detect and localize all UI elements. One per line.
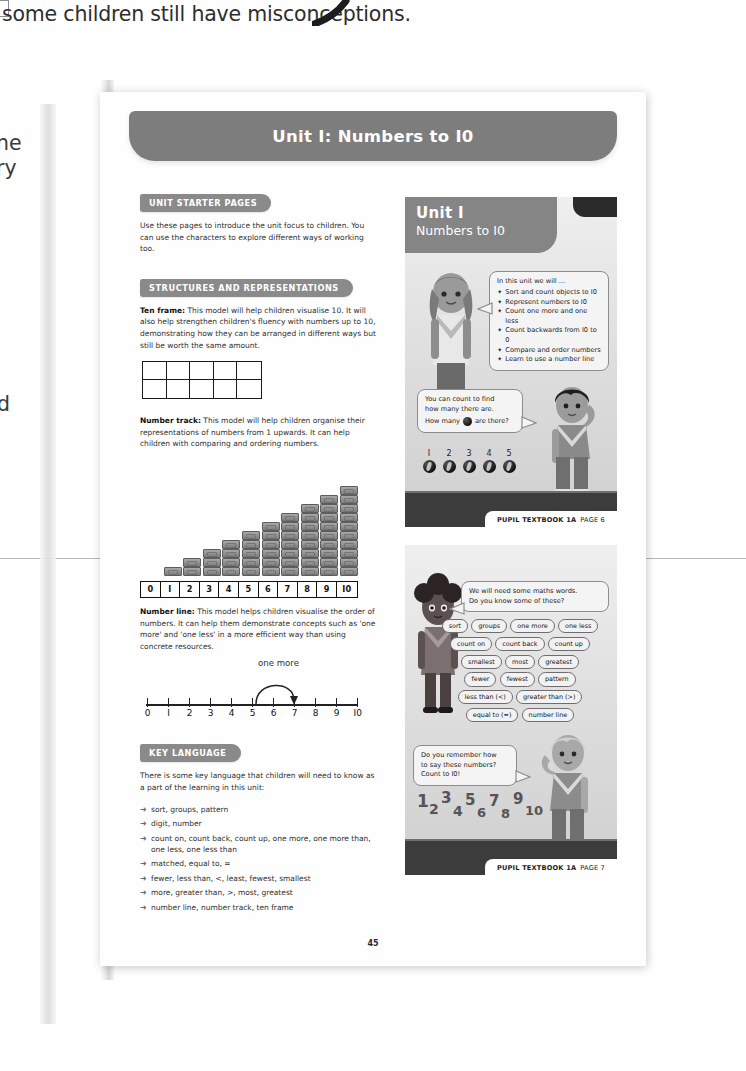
cube bbox=[183, 558, 201, 567]
word-tag[interactable]: less than (<) bbox=[458, 690, 513, 704]
cube bbox=[222, 540, 240, 549]
number-track-paragraph: Number track: This model will help child… bbox=[140, 415, 378, 450]
objectives-intro: In this unit we will ... bbox=[497, 277, 601, 287]
heading-key-language: KEY LANGUAGE bbox=[140, 744, 241, 762]
word-tag[interactable]: fewest bbox=[500, 672, 535, 686]
word-tag[interactable]: fewer bbox=[464, 672, 496, 686]
word-tag[interactable]: smallest bbox=[461, 655, 502, 669]
teacher-guide-page: Unit I: Numbers to I0 UNIT STARTER PAGES… bbox=[100, 92, 646, 966]
wavy-number: 10 bbox=[525, 803, 543, 818]
number-line-label: 8 bbox=[313, 708, 319, 718]
ten-frame-cell bbox=[190, 362, 214, 380]
objective-text: Sort and count objects to I0 bbox=[505, 288, 597, 298]
wavy-number: 7 bbox=[489, 792, 499, 810]
number-line-label: 2 bbox=[187, 708, 193, 718]
screenshot-root: some children still have misconceptions.… bbox=[0, 0, 746, 1071]
cube bbox=[262, 531, 280, 540]
key-language-text: sort, groups, pattern bbox=[151, 804, 228, 815]
key-language-item: ➜more, greater than, >, most, greatest bbox=[140, 887, 378, 898]
count-number: 5 bbox=[499, 449, 519, 458]
number-line-tick bbox=[210, 698, 211, 707]
word-tag[interactable]: one more bbox=[510, 619, 554, 633]
cube bbox=[222, 558, 240, 567]
page7-words-bubble: We will need some maths words. Do you kn… bbox=[461, 581, 609, 612]
word-tag[interactable]: equal to (=) bbox=[466, 708, 519, 722]
number-line-tick bbox=[315, 698, 316, 707]
tag-row: count oncount backcount up bbox=[427, 637, 613, 651]
word-tag[interactable]: most bbox=[505, 655, 535, 669]
number-line-tick bbox=[273, 698, 274, 707]
character-girl-page6 bbox=[423, 269, 479, 399]
cube bbox=[340, 531, 358, 540]
ten-frame-cell bbox=[143, 380, 167, 398]
word-tag[interactable]: greatest bbox=[538, 655, 579, 669]
word-tag[interactable]: count back bbox=[495, 637, 544, 651]
word-tag[interactable]: number line bbox=[522, 708, 575, 722]
cube bbox=[242, 549, 260, 558]
cube bbox=[242, 558, 260, 567]
cube bbox=[281, 558, 299, 567]
cube bbox=[320, 531, 338, 540]
number-line-label: 5 bbox=[250, 708, 256, 718]
arrow-bullet-icon: ➜ bbox=[140, 887, 147, 898]
word-tag[interactable]: count on bbox=[450, 637, 492, 651]
cube bbox=[222, 549, 240, 558]
arrow-bullet-icon: ➜ bbox=[140, 902, 147, 913]
cube bbox=[301, 549, 319, 558]
cube bbox=[340, 540, 358, 549]
number-line-label: 6 bbox=[271, 708, 277, 718]
count-ball-icon bbox=[463, 460, 476, 473]
key-language-text: more, greater than, >, most, greatest bbox=[151, 887, 293, 898]
cube-stack bbox=[183, 558, 201, 576]
ten-frame-label: Ten frame: bbox=[140, 306, 185, 315]
wavy-number: 8 bbox=[501, 806, 510, 821]
word-tag[interactable]: count up bbox=[548, 637, 590, 651]
key-language-intro: There is some key language that children… bbox=[140, 770, 378, 793]
key-language-text: number line, number track, ten frame bbox=[151, 902, 293, 913]
ten-frame-cell bbox=[167, 362, 191, 380]
word-tag[interactable]: pattern bbox=[538, 672, 575, 686]
tag-row: less than (<)greater than (>) bbox=[427, 690, 613, 704]
objective-item: ✦Compare and order numbers bbox=[497, 346, 601, 356]
cube bbox=[301, 504, 319, 513]
arrow-bullet-icon: ➜ bbox=[140, 804, 147, 815]
tag-row: smallestmostgreatest bbox=[427, 655, 613, 669]
page6-footer-page: PAGE 6 bbox=[580, 516, 605, 524]
cube bbox=[242, 567, 260, 576]
cube-stack bbox=[164, 567, 182, 576]
page6-title-line1: Unit I bbox=[416, 204, 557, 222]
words-bubble-line1: We will need some maths words. bbox=[469, 587, 601, 597]
cube bbox=[262, 567, 280, 576]
number-track-cell: 6 bbox=[259, 582, 279, 597]
objectives-list: ✦Sort and count objects to I0✦Represent … bbox=[497, 288, 601, 365]
cube bbox=[222, 567, 240, 576]
cube-stack bbox=[340, 486, 358, 576]
cube-stack bbox=[242, 531, 260, 576]
page6-counting-bubble: You can count to find how many there are… bbox=[417, 389, 523, 433]
number-line-paragraph: Number line: This model helps children v… bbox=[140, 606, 378, 652]
arrow-bullet-icon: ➜ bbox=[140, 833, 147, 844]
cube bbox=[242, 540, 260, 549]
counting-bubble-line2: how many there are. bbox=[425, 405, 515, 415]
cube bbox=[242, 531, 260, 540]
cube bbox=[203, 567, 221, 576]
objective-item: ✦Count one more and one less bbox=[497, 307, 601, 326]
word-tag[interactable]: groups bbox=[471, 619, 507, 633]
word-tag[interactable]: sort bbox=[442, 619, 468, 633]
number-track-cell: I bbox=[161, 582, 181, 597]
key-language-item: ➜matched, equal to, = bbox=[140, 858, 378, 869]
page7-wavy-numbers: 12345678910 bbox=[415, 789, 565, 823]
cube bbox=[281, 522, 299, 531]
heading-unit-starter-pages: UNIT STARTER PAGES bbox=[140, 194, 271, 212]
count-ball-icon bbox=[443, 460, 456, 473]
tag-row: sortgroupsone moreone less bbox=[427, 619, 613, 633]
number-line-label: Number line: bbox=[140, 607, 195, 616]
bolt-bullet-icon: ✦ bbox=[497, 298, 502, 308]
book-spine-outer bbox=[40, 104, 56, 1024]
page7-count-bubble: Do you remember how to say these numbers… bbox=[413, 745, 517, 786]
word-tag[interactable]: one less bbox=[558, 619, 598, 633]
word-tag[interactable]: greater than (>) bbox=[516, 690, 582, 704]
number-line-label: 4 bbox=[229, 708, 235, 718]
number-line-label: 0 bbox=[145, 708, 151, 718]
cube bbox=[164, 567, 182, 576]
